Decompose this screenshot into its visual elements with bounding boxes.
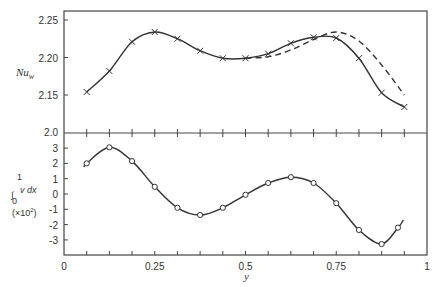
y-tick-label: -2: [49, 220, 58, 231]
circle-marker: [356, 227, 361, 232]
y-tick-label: 3: [52, 143, 58, 154]
circle-marker: [379, 241, 384, 246]
circle-marker: [395, 225, 400, 230]
circle-marker: [220, 205, 225, 210]
x-marker: [356, 55, 362, 61]
y-tick-label: 2.20: [39, 53, 59, 64]
y-tick-label: 2: [52, 158, 58, 169]
circle-marker: [107, 145, 112, 150]
circle-marker: [198, 212, 203, 217]
circle-marker: [175, 205, 180, 210]
y-tick-label: -1: [49, 204, 58, 215]
circle-marker: [334, 201, 339, 206]
x-tick-label: 1: [424, 261, 430, 272]
x-tick-label: 0.75: [327, 261, 347, 272]
circle-marker: [152, 184, 157, 189]
circle-marker: [129, 159, 134, 164]
circle-marker: [266, 180, 271, 185]
tick-labels: 2.252.202.152.03210-1-2-300.250.50.751: [39, 15, 431, 272]
y-tick-label: 2.25: [39, 15, 59, 26]
x-tick-label: 0.25: [145, 261, 165, 272]
circle-marker: [84, 161, 89, 166]
axis-ticks: [64, 20, 404, 255]
x-marker: [333, 35, 339, 41]
x-marker: [379, 90, 385, 96]
x-axis-label: y: [243, 270, 249, 282]
x-marker: [129, 39, 135, 45]
integral-upper-bound: 1: [17, 172, 22, 182]
chart-figure: 2.252.202.152.03210-1-2-300.250.50.751 N…: [0, 0, 441, 287]
top-y-axis-label: Nuw: [15, 66, 35, 81]
nu-curve: [87, 32, 405, 107]
circle-marker: [288, 175, 293, 180]
x-marker: [197, 48, 203, 54]
x-marker: [174, 36, 180, 42]
y-tick-label: 0: [52, 189, 58, 200]
y-tick-label: 2.0: [44, 127, 58, 138]
y-tick-label: 2.15: [39, 90, 59, 101]
integrand-label: v dx: [20, 185, 37, 195]
circle-marker: [311, 180, 316, 185]
x-marker: [84, 89, 90, 95]
dashed-curve: [246, 32, 405, 95]
circle-marker: [243, 192, 248, 197]
x-marker: [106, 68, 112, 74]
scale-label: (×102): [12, 207, 37, 218]
x-tick-label: 0: [61, 261, 67, 272]
bottom-y-axis-label: ∫ 0 1 v dx (×102): [10, 172, 37, 218]
y-tick-label: -3: [49, 235, 58, 246]
y-tick-label: 1: [52, 174, 58, 185]
x-marker: [401, 104, 407, 110]
circle-markers: [84, 145, 400, 247]
integral-lower-bound: 0: [12, 196, 17, 206]
